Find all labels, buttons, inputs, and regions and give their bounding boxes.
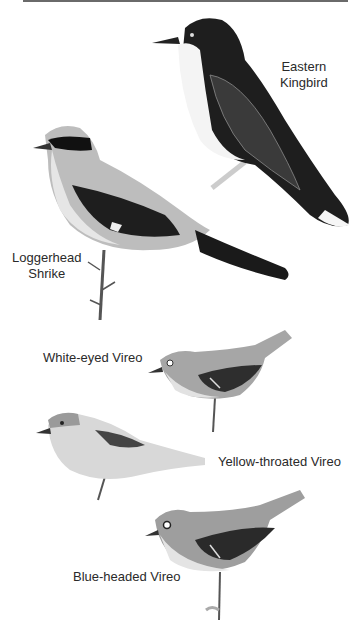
blue-headed-vireo-illustration bbox=[145, 490, 305, 620]
label-line: Kingbird bbox=[280, 75, 328, 91]
label-white-eyed-vireo: White-eyed Vireo bbox=[43, 350, 142, 366]
yellow-throated-vireo-illustration bbox=[36, 413, 205, 500]
label-line: Shrike bbox=[12, 266, 81, 282]
label-line: Loggerhead bbox=[12, 250, 81, 266]
white-eyed-vireo-illustration bbox=[148, 330, 292, 432]
label-blue-headed-vireo: Blue-headed Vireo bbox=[73, 569, 180, 585]
bird-plate: Eastern Kingbird Loggerhead Shrike White… bbox=[0, 0, 364, 640]
eastern-kingbird-illustration bbox=[152, 18, 350, 226]
label-yellow-throated-vireo: Yellow-throated Vireo bbox=[218, 454, 341, 470]
label-eastern-kingbird: Eastern Kingbird bbox=[280, 59, 328, 91]
label-line: Eastern bbox=[280, 59, 328, 75]
bird-illustrations bbox=[0, 0, 364, 640]
label-loggerhead-shrike: Loggerhead Shrike bbox=[12, 250, 81, 282]
